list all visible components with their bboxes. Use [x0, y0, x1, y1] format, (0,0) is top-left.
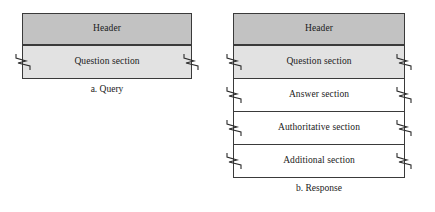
response-section-question-label: Question section [286, 57, 351, 67]
response-section-header-label: Header [305, 24, 333, 34]
query-caption: a. Query [22, 85, 192, 95]
torn-edge-right-icon [396, 86, 412, 104]
query-section-question: Question section [23, 45, 191, 78]
response-packet: Header Question section Answer sectio [233, 13, 405, 178]
response-section-additional-label: Additional section [283, 156, 355, 166]
query-packet: Header Question section [22, 13, 192, 79]
figure-query: Header Question section a. Query [22, 13, 192, 95]
torn-edge-left-icon [15, 53, 31, 71]
torn-edge-left-icon [226, 119, 242, 137]
torn-edge-right-icon [396, 152, 412, 170]
query-section-header-label: Header [93, 24, 121, 34]
query-section-question-label: Question section [74, 57, 139, 67]
response-section-additional: Additional section [234, 144, 404, 177]
torn-edge-left-icon [226, 86, 242, 104]
response-section-answer-label: Answer section [289, 90, 349, 100]
response-section-question: Question section [234, 45, 404, 78]
response-section-answer: Answer section [234, 78, 404, 111]
torn-edge-left-icon [226, 152, 242, 170]
response-section-header: Header [234, 14, 404, 45]
torn-edge-left-icon [226, 53, 242, 71]
query-section-header: Header [23, 14, 191, 45]
response-section-authoritative: Authoritative section [234, 111, 404, 144]
figure-response: Header Question section Answer sectio [233, 13, 405, 194]
response-caption: b. Response [233, 184, 405, 194]
response-section-authoritative-label: Authoritative section [278, 123, 360, 133]
torn-edge-right-icon [396, 53, 412, 71]
torn-edge-right-icon [183, 53, 199, 71]
torn-edge-right-icon [396, 119, 412, 137]
